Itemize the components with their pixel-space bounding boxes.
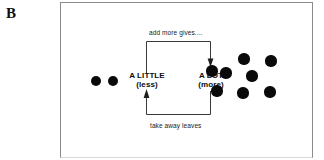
- take-away-arrow: [147, 91, 211, 115]
- dot: [91, 76, 102, 87]
- figure-canvas: A LITTLE (less) A LOT (more) add more gi…: [61, 3, 312, 157]
- dot: [265, 55, 276, 66]
- a-lot-label-main: A LOT: [182, 71, 240, 80]
- dot: [238, 53, 249, 64]
- dot: [246, 70, 257, 81]
- take-away-caption: take away leaves: [150, 122, 201, 129]
- a-little-label: A LITTLE (less): [116, 71, 178, 89]
- dot: [237, 87, 248, 98]
- panel-letter: B: [6, 6, 16, 21]
- take-away-arrowhead: [144, 89, 150, 98]
- a-lot-label-sub: (more): [182, 80, 240, 89]
- add-more-caption: add more gives....: [149, 29, 202, 36]
- a-little-label-sub: (less): [116, 80, 178, 89]
- a-lot-label: A LOT (more): [182, 71, 240, 89]
- a-little-label-main: A LITTLE: [116, 71, 178, 80]
- figure-frame: A LITTLE (less) A LOT (more) add more gi…: [60, 2, 313, 158]
- dot: [264, 86, 275, 97]
- figure-panel-b: B: [0, 0, 324, 160]
- add-more-arrow: [147, 42, 211, 74]
